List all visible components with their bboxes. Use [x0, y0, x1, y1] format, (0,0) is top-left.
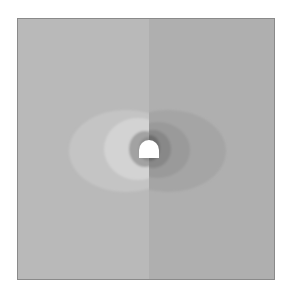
contour-plot-frame [17, 18, 275, 280]
contour-plot [18, 19, 275, 280]
